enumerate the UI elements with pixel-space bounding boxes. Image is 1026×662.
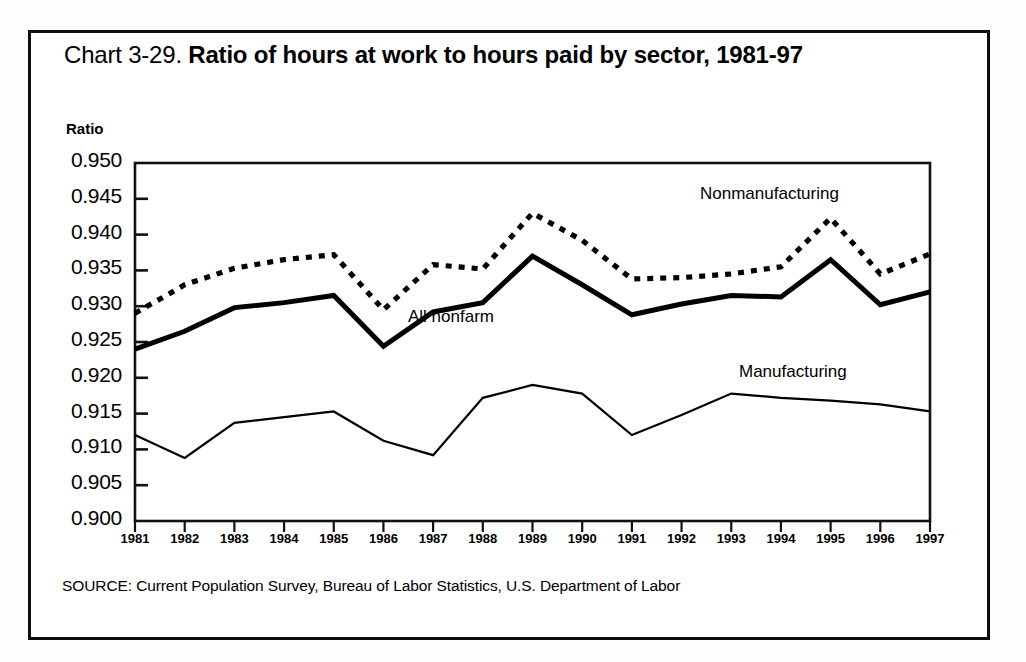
y-tick-label: 0.945	[36, 184, 122, 208]
x-tick-label: 1992	[659, 531, 705, 546]
y-tick-label: 0.930	[36, 291, 122, 315]
source-note: SOURCE: Current Population Survey, Burea…	[62, 577, 680, 595]
y-tick-label: 0.915	[36, 399, 122, 423]
x-tick-label: 1990	[559, 531, 605, 546]
page-title: Chart 3-29. Ratio of hours at work to ho…	[64, 40, 944, 69]
y-tick-label: 0.905	[36, 470, 122, 494]
y-tick-label: 0.940	[36, 220, 122, 244]
x-tick-label: 1997	[907, 531, 953, 546]
x-tick-label: 1996	[857, 531, 903, 546]
x-tick-label: 1984	[261, 531, 307, 546]
x-tick-label: 1987	[410, 531, 456, 546]
chart-number: Chart 3-29.	[64, 41, 188, 68]
x-tick-label: 1993	[708, 531, 754, 546]
chart-outer-border	[28, 30, 990, 640]
x-tick-label: 1991	[609, 531, 655, 546]
y-tick-label: 0.925	[36, 327, 122, 351]
x-tick-label: 1988	[460, 531, 506, 546]
y-tick-label: 0.950	[36, 148, 122, 172]
x-tick-label: 1995	[808, 531, 854, 546]
y-tick-label: 0.920	[36, 363, 122, 387]
x-tick-label: 1986	[360, 531, 406, 546]
series-label-nonmanufacturing: Nonmanufacturing	[700, 184, 839, 204]
x-tick-label: 1994	[758, 531, 804, 546]
x-tick-label: 1982	[162, 531, 208, 546]
series-label-manufacturing: Manufacturing	[739, 362, 847, 382]
y-tick-label: 0.935	[36, 255, 122, 279]
chart-title-text: Ratio of hours at work to hours paid by …	[188, 41, 802, 68]
x-tick-label: 1989	[510, 531, 556, 546]
x-tick-label: 1981	[112, 531, 158, 546]
y-tick-label: 0.910	[36, 434, 122, 458]
x-tick-label: 1983	[211, 531, 257, 546]
series-label-all-nonfarm: All nonfarm	[408, 307, 494, 327]
chart-page: Chart 3-29. Ratio of hours at work to ho…	[0, 0, 1026, 662]
y-tick-label: 0.900	[36, 506, 122, 530]
x-tick-label: 1985	[311, 531, 357, 546]
y-axis-caption: Ratio	[66, 120, 104, 137]
